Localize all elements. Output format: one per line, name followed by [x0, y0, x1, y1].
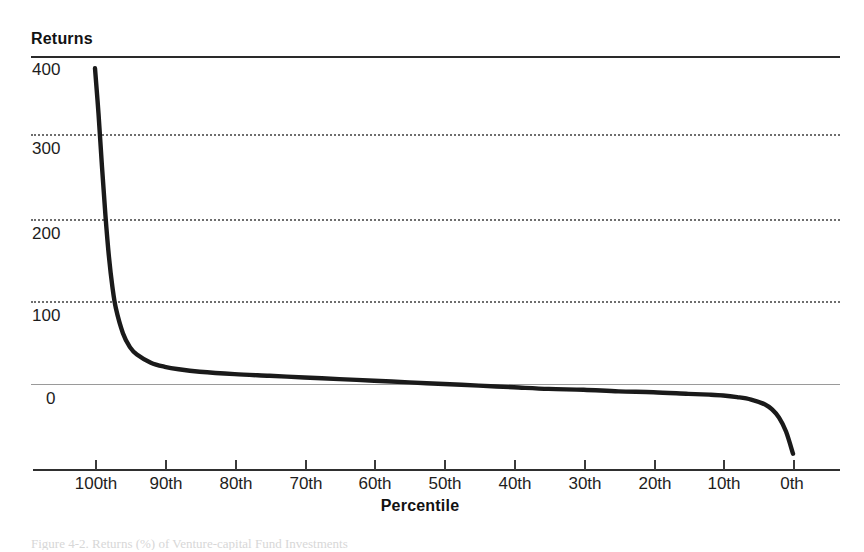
- x-tick-mark: [723, 460, 725, 470]
- x-tick-mark: [654, 460, 656, 470]
- x-tick-label-20th: 20th: [638, 474, 671, 494]
- x-tick-label-30th: 30th: [568, 474, 601, 494]
- x-axis-title-text: Percentile: [381, 497, 459, 514]
- x-tick-mark: [374, 460, 376, 470]
- x-axis-title: Percentile: [0, 497, 864, 515]
- x-tick-label-60th: 60th: [358, 474, 391, 494]
- x-tick-label-0th: 0th: [780, 474, 804, 494]
- x-tick-mark: [95, 460, 97, 470]
- chart-figure: Returns 400 300 200 100 0 100th 90th 80t…: [0, 0, 864, 552]
- x-tick-mark: [793, 460, 795, 470]
- x-tick-label-90th: 90th: [149, 474, 182, 494]
- x-tick-mark: [444, 460, 446, 470]
- x-tick-mark: [235, 460, 237, 470]
- x-axis-line: [33, 469, 840, 471]
- x-tick-mark: [305, 460, 307, 470]
- x-tick-label-50th: 50th: [428, 474, 461, 494]
- x-tick-label-70th: 70th: [289, 474, 322, 494]
- figure-caption: Figure 4-2. Returns (%) of Venture-capit…: [31, 536, 831, 550]
- x-tick-label-100th: 100th: [75, 474, 118, 494]
- x-tick-mark: [514, 460, 516, 470]
- x-tick-label-80th: 80th: [219, 474, 252, 494]
- x-tick-mark: [165, 460, 167, 470]
- x-tick-label-10th: 10th: [707, 474, 740, 494]
- x-tick-label-40th: 40th: [498, 474, 531, 494]
- x-tick-mark: [584, 460, 586, 470]
